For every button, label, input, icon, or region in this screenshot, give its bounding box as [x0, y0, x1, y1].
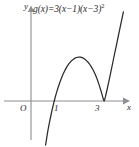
- y-axis-label: y: [24, 2, 28, 11]
- origin-label: O: [20, 104, 27, 113]
- x-axis-label: x: [127, 103, 131, 112]
- graph-canvas: [0, 0, 139, 147]
- equation-exponent: 2: [101, 2, 104, 9]
- x-tick-label-1: 1: [54, 104, 59, 113]
- x-tick-label-3: 3: [95, 104, 100, 113]
- cubic-curve: [46, 12, 124, 145]
- y-axis: [28, 6, 34, 141]
- equation-label: g(x)=3(x−1)(x−3)2: [33, 3, 104, 15]
- function-graph-figure: g(x)=3(x−1)(x−3)2 y x O 1 3: [0, 0, 139, 147]
